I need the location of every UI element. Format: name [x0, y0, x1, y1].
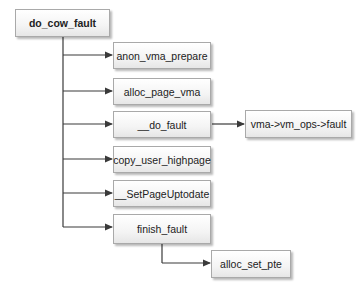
node-do-fault: __do_fault: [113, 111, 211, 138]
node-label: alloc_page_vma: [124, 86, 200, 98]
node-vma-vm-ops-fault: vma->vm_ops->fault: [245, 110, 352, 138]
node-alloc-set-pte: alloc_set_pte: [211, 250, 291, 278]
node-label: anon_vma_prepare: [116, 50, 207, 62]
node-copy-user-highpage: copy_user_highpage: [113, 146, 211, 173]
node-finish-fault: finish_fault: [113, 214, 211, 244]
node-label: alloc_set_pte: [220, 258, 282, 270]
node-label: finish_fault: [137, 223, 187, 235]
node-label: copy_user_highpage: [113, 154, 211, 166]
node-setpageuptodate: __SetPageUptodate: [113, 180, 211, 207]
node-anon-vma-prepare: anon_vma_prepare: [113, 42, 211, 69]
node-label: vma->vm_ops->fault: [251, 118, 347, 130]
node-do-cow-fault: do_cow_fault: [15, 9, 110, 37]
node-label: do_cow_fault: [29, 17, 96, 29]
node-label: __SetPageUptodate: [115, 188, 210, 200]
node-label: __do_fault: [137, 119, 186, 131]
node-alloc-page-vma: alloc_page_vma: [113, 78, 211, 105]
